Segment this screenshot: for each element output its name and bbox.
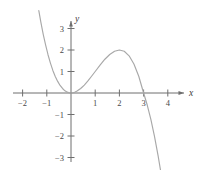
x-tick-label--2: −2 bbox=[18, 98, 27, 108]
x-axis-arrowhead bbox=[179, 91, 185, 95]
y-tick-label--1: −1 bbox=[55, 110, 64, 120]
x-tick-label--1: −1 bbox=[42, 98, 51, 108]
y-axis-label: y bbox=[74, 14, 80, 24]
axes-group bbox=[13, 21, 184, 162]
x-tick-label-1: 1 bbox=[93, 98, 97, 108]
x-tick-label-2: 2 bbox=[117, 98, 121, 108]
y-tick-label--3: −3 bbox=[55, 153, 64, 163]
math-graph-figure: −2 −1 1 2 3 4 3 2 1 −1 −2 −3 x y bbox=[0, 0, 207, 170]
x-axis-label: x bbox=[188, 88, 194, 98]
y-tick-label-1: 1 bbox=[60, 67, 64, 77]
y-axis-arrowhead bbox=[69, 21, 73, 27]
function-curve bbox=[39, 11, 161, 170]
x-tick-label-4: 4 bbox=[166, 98, 171, 108]
cubic-function-plot: −2 −1 1 2 3 4 3 2 1 −1 −2 −3 x y bbox=[0, 0, 207, 170]
y-tick-label--2: −2 bbox=[55, 131, 64, 141]
y-tick-label-2: 2 bbox=[60, 45, 64, 55]
y-tick-label-3: 3 bbox=[60, 24, 64, 34]
